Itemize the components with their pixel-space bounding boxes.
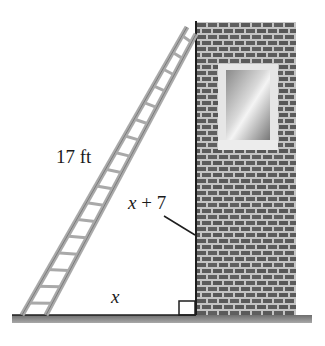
window [218,64,278,150]
base-side-label: x [111,286,119,308]
ladder [22,27,196,315]
diagram-canvas [0,0,325,346]
ground [12,315,312,323]
right-angle-marker [179,301,195,315]
ladder-wall-diagram: 17 ft x + 7 x [0,0,325,346]
label-leader-line [164,216,195,235]
vertical-offset: + 7 [136,192,166,213]
vertical-side-label: x + 7 [128,192,166,214]
hypotenuse-label: 17 ft [56,146,91,168]
